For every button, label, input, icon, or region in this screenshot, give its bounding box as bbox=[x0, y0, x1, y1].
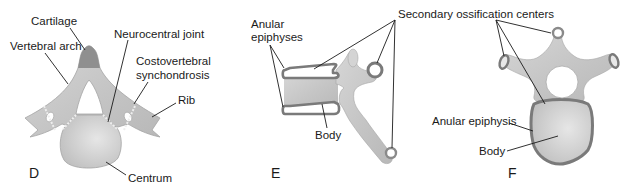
panel-d: Cartilage Vertebral arch Neurocentral jo… bbox=[10, 15, 211, 184]
panel-letter-d: D bbox=[29, 165, 39, 181]
label-neurocentral-joint: Neurocentral joint bbox=[114, 28, 205, 40]
secondary-center-spinous-f bbox=[553, 28, 563, 38]
posterior-elements bbox=[336, 51, 392, 163]
label-vertebral-arch: Vertebral arch bbox=[10, 40, 82, 52]
label-costovertebral: Costovertebral bbox=[136, 55, 211, 67]
label-anular-1: Anular bbox=[251, 18, 284, 30]
panel-e: Anular epiphyses Body E bbox=[251, 18, 396, 181]
panel-letter-f: F bbox=[508, 165, 517, 181]
label-body-f: Body bbox=[479, 145, 505, 157]
anular-epiphysis-top bbox=[283, 64, 339, 78]
vertebral-development-diagram: Cartilage Vertebral arch Neurocentral jo… bbox=[0, 0, 631, 188]
label-rib: Rib bbox=[178, 94, 195, 106]
label-anular-2: epiphyses bbox=[251, 31, 303, 43]
label-cartilage: Cartilage bbox=[31, 15, 77, 27]
panel-f: Secondary ossification centers Anular ep… bbox=[314, 8, 620, 181]
secondary-center-spinous bbox=[386, 148, 396, 158]
vertebral-foramen-f bbox=[546, 66, 578, 98]
panel-letter-e: E bbox=[271, 165, 280, 181]
label-anular-epiphysis: Anular epiphysis bbox=[432, 115, 517, 127]
label-secondary-ossification: Secondary ossification centers bbox=[398, 8, 554, 20]
label-centrum: Centrum bbox=[128, 172, 172, 184]
vertebral-body-f bbox=[531, 100, 593, 165]
label-body-e: Body bbox=[315, 129, 341, 141]
secondary-center-transverse bbox=[368, 63, 382, 77]
label-synchondrosis: synchondrosis bbox=[136, 69, 210, 81]
superior-articular-process bbox=[348, 49, 358, 67]
